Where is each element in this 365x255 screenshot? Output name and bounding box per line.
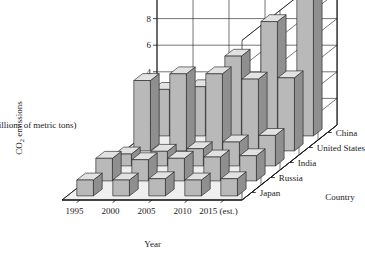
- bar-united-states-2005-front-face: [206, 74, 223, 151]
- z-tick-label-japan: Japan: [260, 188, 281, 198]
- z-tick-label-russia: Russia: [279, 173, 303, 183]
- x-axis-title: Year: [144, 239, 161, 249]
- bar-japan-1995-front-face: [77, 180, 94, 196]
- chart-container: 024681012CO2 emissions(billions of metri…: [0, 0, 365, 255]
- x-tick-label-3: 2010: [174, 206, 193, 216]
- co2-emissions-3d-bar-chart: 024681012CO2 emissions(billions of metri…: [0, 0, 365, 255]
- z-axis-title: Country: [325, 192, 355, 202]
- y-tick-label-6: 6: [147, 40, 152, 50]
- y-axis-title-line2: (billions of metric tons): [0, 120, 77, 130]
- z-tick-label-india: India: [298, 158, 317, 168]
- x-tick-label-0: 1995: [66, 206, 85, 216]
- bar-japan-2005-front-face: [149, 179, 166, 196]
- y-tick-label-8: 8: [147, 14, 152, 24]
- z-tick-label-united-states: United States: [317, 143, 365, 153]
- bar-china-2015-side-face: [313, 0, 322, 136]
- x-tick-label-4: 2015 (est.): [199, 206, 238, 216]
- bar-united-states-2015-side-face: [294, 71, 303, 151]
- x-tick-label-1: 2000: [102, 206, 121, 216]
- x-tick-label-2: 2005: [138, 206, 157, 216]
- bar-united-states-2000-front-face: [170, 74, 187, 151]
- bar-united-states-1995-front-face: [134, 81, 151, 151]
- z-tick-label-china: China: [336, 128, 358, 138]
- bar-united-states-2000-side-face: [186, 67, 195, 151]
- bar-japan-2010-front-face: [185, 180, 202, 196]
- bar-japan-2015-front-face: [221, 179, 238, 196]
- bar-united-states-1995-side-face: [150, 74, 159, 151]
- bar-japan-2000-front-face: [113, 180, 130, 196]
